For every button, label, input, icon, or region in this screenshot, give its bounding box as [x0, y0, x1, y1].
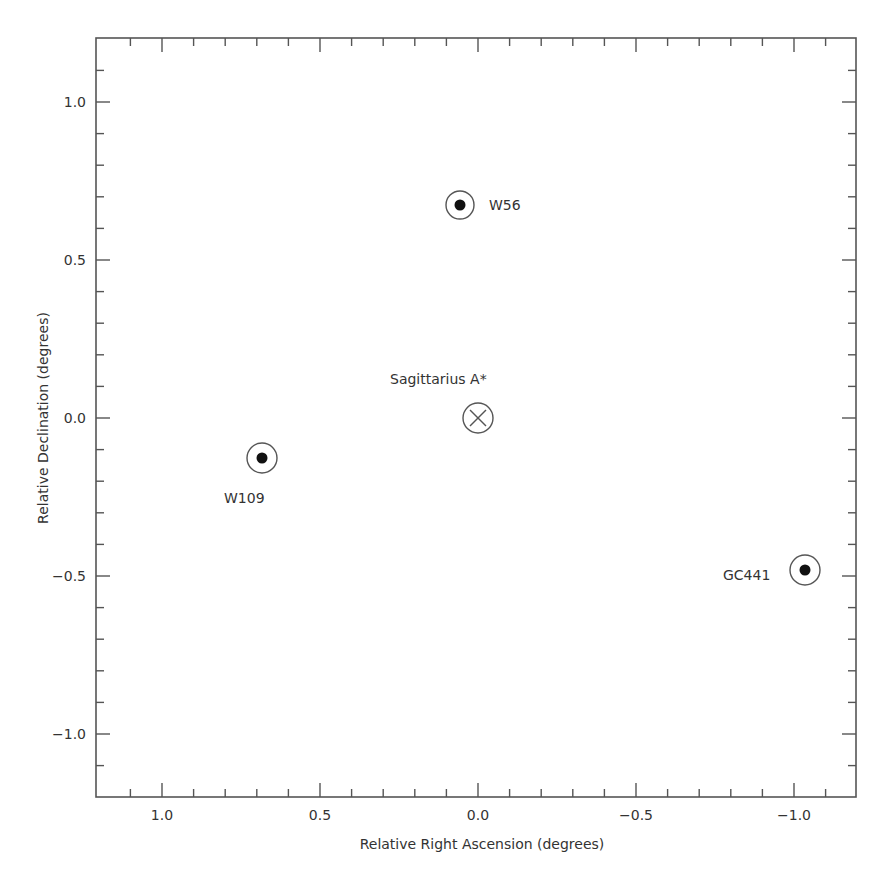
source-dot-icon: [257, 453, 268, 464]
x-tick-label: 0.0: [467, 807, 489, 823]
y-tick-label: 0.0: [64, 410, 86, 426]
source-label: W109: [224, 490, 265, 506]
source-sagittarius-a-star: Sagittarius A*: [390, 371, 493, 433]
source-dot-icon: [455, 200, 466, 211]
source-label: GC441: [723, 567, 770, 583]
source-label: Sagittarius A*: [390, 371, 487, 387]
x-tick-labels: 1.0 0.5 0.0 −0.5 −1.0: [151, 807, 811, 823]
source-gc441: GC441: [723, 555, 820, 585]
y-tick-label: 1.0: [64, 94, 86, 110]
y-tick-labels: 1.0 0.5 0.0 −0.5 −1.0: [52, 94, 86, 742]
y-tick-label: 0.5: [64, 252, 86, 268]
y-tick-label: −1.0: [52, 726, 86, 742]
source-w56: W56: [446, 191, 521, 219]
x-tick-label: 1.0: [151, 807, 173, 823]
source-label: W56: [489, 197, 521, 213]
source-dot-icon: [800, 565, 811, 576]
source-w109: W109: [224, 443, 277, 506]
x-tick-label: 0.5: [309, 807, 331, 823]
x-axis-title: Relative Right Ascension (degrees): [360, 836, 605, 852]
sky-position-chart: 1.0 0.5 0.0 −0.5 −1.0 1.0 0.5 0.0 −0.5 −…: [0, 0, 880, 881]
y-tick-label: −0.5: [52, 568, 86, 584]
x-tick-label: −0.5: [619, 807, 653, 823]
x-tick-label: −1.0: [777, 807, 811, 823]
y-axis-title: Relative Declination (degrees): [35, 312, 51, 524]
